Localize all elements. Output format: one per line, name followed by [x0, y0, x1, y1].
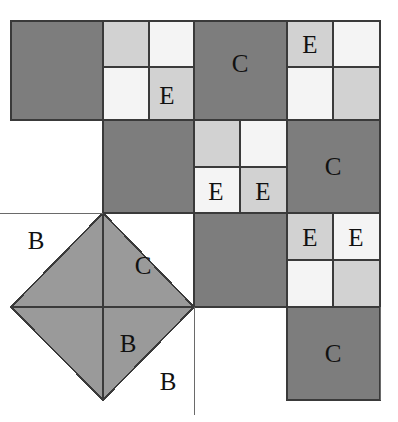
label-E-low-right: E [348, 225, 363, 250]
cell-r0c3 [149, 21, 194, 67]
label-E-top-right: E [302, 32, 317, 57]
label-E-top-left: E [159, 83, 174, 108]
cell-r2c4 [194, 120, 240, 167]
cell-r5c7 [333, 260, 380, 307]
cell-r2c5 [240, 120, 287, 167]
cell-r0c0 [11, 21, 103, 120]
label-C-right: C [325, 154, 342, 179]
label-B-outer: B [160, 369, 177, 394]
cell-r0c2 [103, 21, 149, 67]
label-C-top: C [232, 51, 249, 76]
label-B-upper-left: B [28, 228, 45, 253]
cell-r1c2 [103, 67, 149, 120]
label-E-mid-left: E [208, 179, 223, 204]
label-E-mid-right: E [255, 179, 270, 204]
label-E-low-left: E [302, 225, 317, 250]
label-B-diamond: B [120, 331, 137, 356]
cell-lower-dark [194, 213, 287, 307]
cell-r1c6 [287, 67, 333, 120]
cell-r1c7 [333, 67, 380, 120]
label-C-diamond: C [135, 253, 152, 278]
cell-mid-dark [103, 120, 194, 213]
figure-canvas: ECEEECEEBCBBC [0, 0, 398, 422]
cell-r5c6 [287, 260, 333, 307]
label-C-bottom: C [325, 341, 342, 366]
cell-r0c7 [333, 21, 380, 67]
